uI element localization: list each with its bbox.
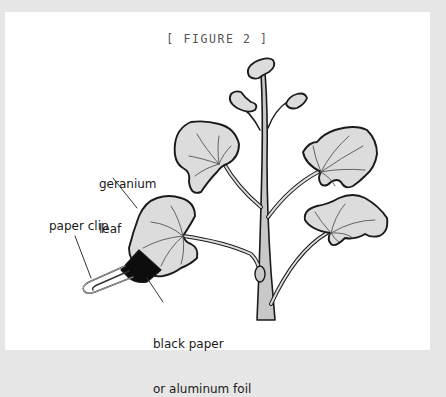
label-geranium-leaf-line1: geranium	[99, 177, 157, 192]
figure-card: [ FIGURE 2 ]	[5, 12, 430, 350]
petiole-left-leaf	[223, 162, 261, 207]
petiole-upper-right	[268, 102, 287, 128]
label-foil-line1: black paper	[153, 337, 251, 352]
main-stem	[257, 72, 275, 320]
leader-paper-clip	[75, 236, 91, 278]
stem-node	[255, 266, 265, 282]
leader-foil	[147, 278, 163, 302]
geranium-plant-illustration	[5, 12, 430, 350]
leaf-top	[248, 58, 274, 78]
petiole-lower-right	[271, 233, 327, 304]
leaf-upper-right	[286, 94, 307, 109]
label-paper-clip: paper clip	[49, 219, 109, 234]
label-foil-line2: or aluminum foil	[153, 382, 251, 397]
leaf-right	[303, 127, 377, 187]
leaf-upper-left	[230, 91, 256, 111]
petiole-lower-right-inner	[271, 233, 327, 304]
label-geranium-leaf: geranium leaf	[99, 147, 157, 267]
leaf-left	[175, 121, 239, 193]
label-black-paper-foil: black paper or aluminum foil	[153, 307, 251, 397]
